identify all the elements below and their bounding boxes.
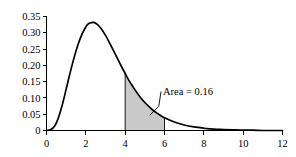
area-annotation-label: Area = 0.16 — [163, 86, 213, 97]
y-tick-label: 0.05 — [22, 109, 40, 120]
x-tick-label: 12 — [277, 138, 288, 149]
x-tick-label: 8 — [201, 138, 206, 149]
x-tick-label: 0 — [44, 138, 49, 149]
y-tick-label: 0.10 — [22, 93, 40, 104]
x-tick-label: 10 — [238, 138, 249, 149]
chart-svg: 00.050.100.150.200.250.300.35 024681012 … — [0, 0, 296, 157]
y-tick-label: 0 — [35, 125, 40, 136]
density-curve — [47, 22, 283, 130]
y-tick-label: 0.35 — [22, 11, 40, 22]
x-tick-label: 2 — [83, 138, 88, 149]
x-axis-tick-labels: 024681012 — [44, 138, 288, 149]
y-tick-label: 0.25 — [22, 44, 40, 55]
x-tick-label: 6 — [162, 138, 167, 149]
x-tick-label: 4 — [123, 138, 129, 149]
y-axis-tick-marks — [43, 17, 47, 131]
y-tick-label: 0.15 — [22, 76, 40, 87]
density-curve-figure: 00.050.100.150.200.250.300.35 024681012 … — [0, 0, 296, 157]
y-tick-label: 0.20 — [22, 60, 40, 71]
y-tick-label: 0.30 — [22, 27, 40, 38]
x-axis-tick-marks — [47, 131, 283, 135]
y-axis-tick-labels: 00.050.100.150.200.250.300.35 — [22, 11, 40, 136]
